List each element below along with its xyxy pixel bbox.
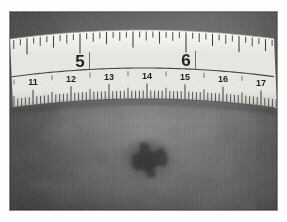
clinical-photograph: 5611121314151617 [10, 12, 277, 210]
film-grain [10, 12, 277, 210]
photograph-render: 5611121314151617 [10, 12, 277, 210]
screenshot-canvas: 5611121314151617 [0, 0, 287, 222]
